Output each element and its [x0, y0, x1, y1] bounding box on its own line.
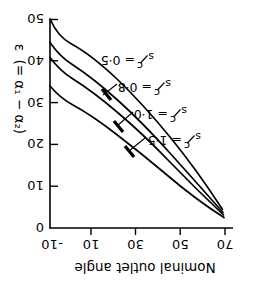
svg-text:ε (= α₁ − α₂): ε (= α₁ − α₂) — [12, 44, 28, 134]
svg-text:s: s — [195, 130, 201, 143]
svg-text:c: c — [184, 139, 190, 152]
sc-1-5-num: s — [195, 130, 201, 143]
y-axis-title: ε (= α₁ − α₂) — [12, 44, 28, 134]
y-axis-title-eps: ε — [12, 44, 28, 51]
x-tick-label-50: 50 — [172, 237, 189, 252]
sc-0-5-num: s — [148, 50, 154, 63]
y-tick-label-20: 20 — [27, 136, 44, 151]
y-tick-label-0: 0 — [36, 220, 44, 235]
sc-1-5-value: = 1·5 — [148, 133, 182, 148]
y-tick-label-40: 40 — [27, 53, 44, 68]
y-tick-label-10: 10 — [27, 178, 44, 193]
sc-1-0-value: = 1·0 — [134, 107, 168, 122]
x-tick-label-minus-10: -10 — [41, 237, 63, 252]
y-tick-label-30: 30 — [27, 95, 44, 110]
sc-0-8-value: = 0·8 — [118, 80, 152, 95]
sc-0-5-value: = 0·5 — [101, 53, 135, 68]
sc-1-0-den: c — [170, 113, 176, 126]
svg-text:s: s — [148, 50, 154, 63]
svg-text:c: c — [154, 86, 160, 99]
x-tick-label-10: 10 — [83, 237, 100, 252]
rotated-figure-container: 70 50 30 10 -10 Nominal outlet angle 0 1… — [0, 0, 263, 285]
y-axis-title-rest: (= α₁ − α₂) — [12, 59, 28, 134]
curve-label-sc-0-5: s c = 0·5 — [101, 50, 154, 72]
curve-label-sc-0-8: s c = 0·8 — [118, 77, 171, 99]
svg-text:c: c — [137, 59, 143, 72]
sc-0-8-num: s — [165, 77, 171, 90]
svg-text:s: s — [181, 104, 187, 117]
y-tick-label-50: 50 — [27, 11, 44, 26]
chart-svg: 70 50 30 10 -10 Nominal outlet angle 0 1… — [0, 0, 263, 285]
x-tick-label-30: 30 — [127, 237, 144, 252]
x-axis-title: Nominal outlet angle — [74, 260, 215, 276]
sc-0-5-den: c — [137, 59, 143, 72]
x-tick-label-70: 70 — [217, 237, 234, 252]
figure-page: 70 50 30 10 -10 Nominal outlet angle 0 1… — [0, 0, 263, 285]
x-axis-ticks — [91, 228, 225, 235]
curve-label-sc-1-5: s c = 1·5 — [148, 130, 201, 152]
sc-0-8-den: c — [154, 86, 160, 99]
x-tick-labels: 70 50 30 10 -10 — [41, 237, 233, 252]
sc-1-5-den: c — [184, 139, 190, 152]
y-tick-labels: 0 10 20 30 40 50 — [27, 11, 44, 235]
curve-sc-1-5 — [50, 86, 224, 218]
svg-text:s: s — [165, 77, 171, 90]
svg-text:c: c — [170, 113, 176, 126]
sc-1-0-num: s — [181, 104, 187, 117]
